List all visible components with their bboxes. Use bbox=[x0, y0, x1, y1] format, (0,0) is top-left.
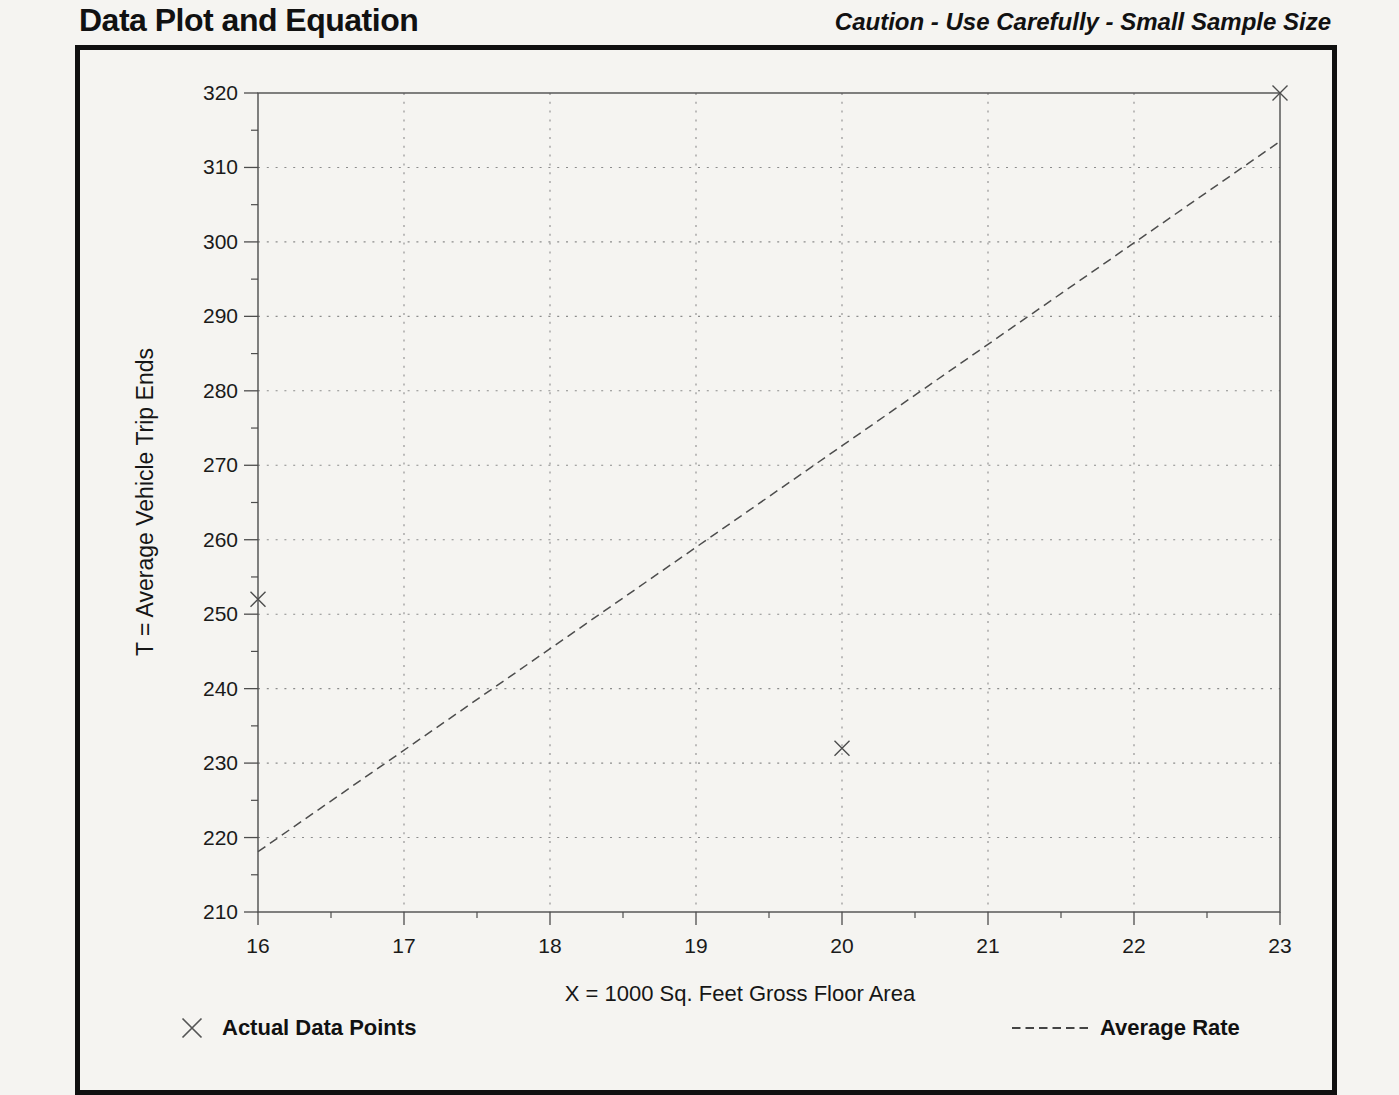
plot-frame bbox=[258, 93, 1280, 912]
y-tick-label: 210 bbox=[203, 900, 238, 923]
y-tick-label: 300 bbox=[203, 230, 238, 253]
y-tick-label: 260 bbox=[203, 528, 238, 551]
y-tick-label: 290 bbox=[203, 304, 238, 327]
legend-item-average-rate: Average Rate bbox=[1012, 1013, 1240, 1043]
y-tick-label: 220 bbox=[203, 826, 238, 849]
average-rate-line bbox=[258, 141, 1280, 851]
x-tick-label: 20 bbox=[830, 934, 853, 957]
x-tick-label: 21 bbox=[976, 934, 999, 957]
y-tick-label: 270 bbox=[203, 453, 238, 476]
x-tick-label: 19 bbox=[684, 934, 707, 957]
x-tick-label: 18 bbox=[538, 934, 561, 957]
y-tick-label: 250 bbox=[203, 602, 238, 625]
y-tick-label: 310 bbox=[203, 155, 238, 178]
legend-label-average-rate: Average Rate bbox=[1100, 1015, 1240, 1041]
legend-item-actual-data-points: Actual Data Points bbox=[180, 1013, 416, 1043]
dashed-line-icon bbox=[1012, 1025, 1090, 1031]
y-tick-label: 230 bbox=[203, 751, 238, 774]
x-tick-label: 22 bbox=[1122, 934, 1145, 957]
x-marker-icon bbox=[180, 1016, 204, 1040]
legend-label-actual-data-points: Actual Data Points bbox=[222, 1015, 416, 1041]
x-axis-title: X = 1000 Sq. Feet Gross Floor Area bbox=[565, 981, 915, 1007]
y-tick-label: 320 bbox=[203, 81, 238, 104]
y-axis-title: T = Average Vehicle Trip Ends bbox=[132, 348, 159, 656]
y-tick-label: 240 bbox=[203, 677, 238, 700]
x-tick-label: 16 bbox=[246, 934, 269, 957]
y-tick-label: 280 bbox=[203, 379, 238, 402]
x-tick-label: 23 bbox=[1268, 934, 1291, 957]
x-tick-label: 17 bbox=[392, 934, 415, 957]
